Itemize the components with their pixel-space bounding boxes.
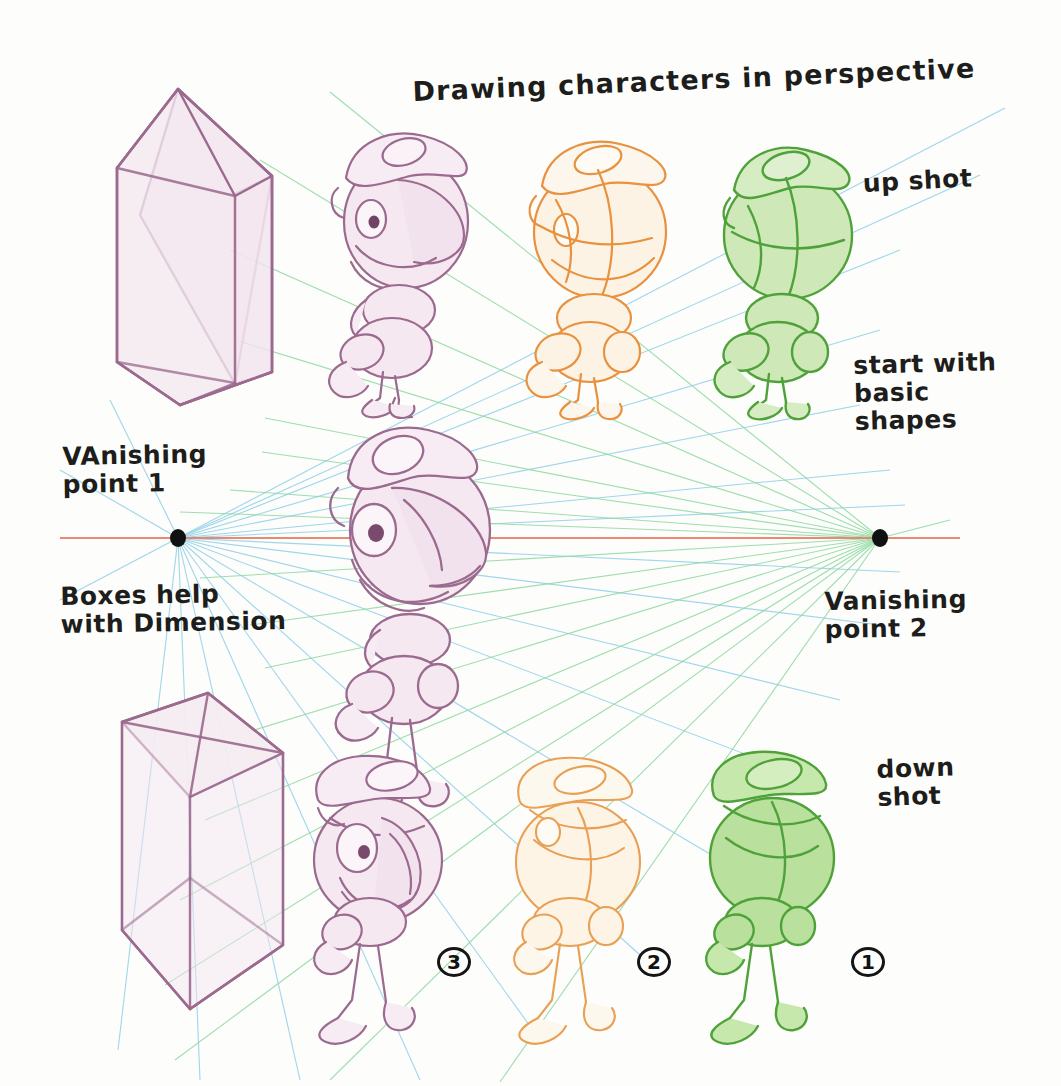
label-vanishing-point-1: VAnishing point 1 — [62, 440, 208, 499]
drawing-sheet: Drawing characters in perspective up sho… — [0, 0, 1061, 1086]
box-down-shot-figure — [122, 693, 283, 1009]
label-vanishing-point-2: Vanishing point 2 — [824, 586, 968, 644]
step-badge-1: 1 — [851, 947, 885, 977]
character-row1-green — [715, 147, 852, 419]
label-up-shot: up shot — [862, 164, 973, 198]
drawings-layer — [0, 0, 1061, 1086]
character-row1-purple — [329, 133, 468, 418]
label-down-shot: down shot — [876, 753, 956, 812]
character-row3-green — [706, 752, 834, 1044]
step-badge-3: 3 — [437, 947, 471, 977]
label-start-with-basic-shapes: start with basic shapes — [853, 348, 998, 436]
character-row1-orange — [527, 141, 666, 419]
label-boxes-help-with-dimension: Boxes help with Dimension — [60, 579, 287, 639]
box-up-shot-figure — [117, 89, 272, 405]
character-row3-orange — [514, 758, 640, 1044]
step-badge-2: 2 — [637, 947, 671, 977]
